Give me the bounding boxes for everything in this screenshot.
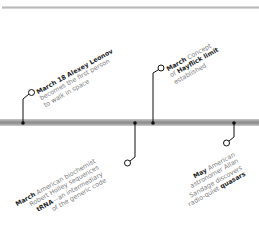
event-4-circle-icon xyxy=(224,140,230,146)
event-2-marker xyxy=(125,121,137,166)
event-4-marker xyxy=(224,121,236,146)
event-3-circle-icon xyxy=(158,65,164,71)
event-2-circle-icon xyxy=(125,160,131,166)
event-1-circle-icon xyxy=(29,90,35,96)
event-3-marker xyxy=(151,65,164,125)
event-1-marker xyxy=(21,90,34,125)
